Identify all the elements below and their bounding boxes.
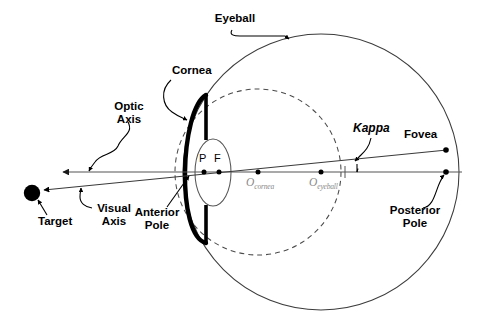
label-eyeball: Eyeball: [205, 12, 265, 25]
label-point-f: F: [214, 152, 221, 165]
label-o-cornea: Ocornea: [246, 176, 274, 188]
label-point-p: P: [199, 152, 206, 165]
label-optic-axis: Optic Axis: [101, 100, 157, 126]
point-f-dot: [217, 170, 222, 175]
o-cornea-subscript: cornea: [254, 182, 274, 191]
point-p-dot: [202, 170, 207, 175]
o-eyeball-dot: [319, 170, 324, 175]
fovea-dot: [443, 147, 449, 153]
target-dot: [24, 185, 40, 201]
posterior-pole-dot: [443, 169, 449, 175]
cornea-leader: [164, 80, 187, 120]
label-posterior-pole: Posterior Pole: [381, 204, 449, 230]
eye-axes-diagram: Eyeball Cornea Optic Axis Visual Axis Ta…: [0, 0, 477, 314]
o-cornea-dot: [256, 170, 261, 175]
optic-axis-leader: [89, 122, 130, 171]
label-target: Target: [38, 215, 72, 228]
label-fovea: Fovea: [404, 128, 437, 141]
label-o-eyeball: Oeyeball: [309, 176, 338, 188]
target-leader: [38, 200, 47, 215]
label-kappa: Kappa: [353, 122, 390, 135]
diagram-canvas: [0, 0, 477, 314]
o-eyeball-subscript: eyeball: [317, 182, 337, 191]
eyeball-leader: [231, 30, 289, 39]
label-anterior-pole: Anterior Pole: [126, 206, 188, 232]
label-cornea: Cornea: [172, 64, 212, 77]
